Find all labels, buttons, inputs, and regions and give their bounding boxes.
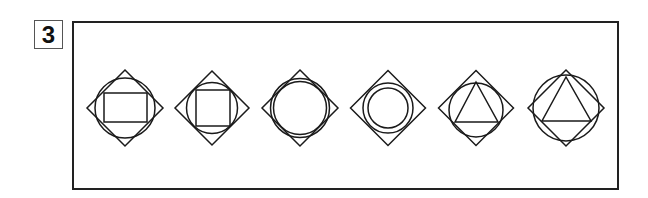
triangle-shape — [542, 77, 591, 121]
figure-6 — [528, 70, 604, 146]
figure-2 — [175, 71, 249, 145]
figure-5 — [439, 71, 514, 146]
circle-shape — [449, 83, 503, 137]
circle-shape — [363, 83, 413, 133]
figures-canvas — [0, 0, 648, 198]
diamond-shape — [87, 70, 163, 146]
circle-shape — [368, 88, 408, 128]
rectangle-shape — [104, 93, 147, 122]
diamond-shape — [351, 71, 426, 146]
figure-4 — [351, 71, 426, 146]
figure-3 — [262, 70, 338, 146]
rectangle-shape — [196, 90, 230, 126]
figure-1 — [87, 70, 163, 146]
diamond-shape — [528, 70, 604, 146]
circle-shape — [274, 82, 327, 135]
circle-shape — [533, 75, 599, 141]
circle-shape — [271, 79, 330, 138]
